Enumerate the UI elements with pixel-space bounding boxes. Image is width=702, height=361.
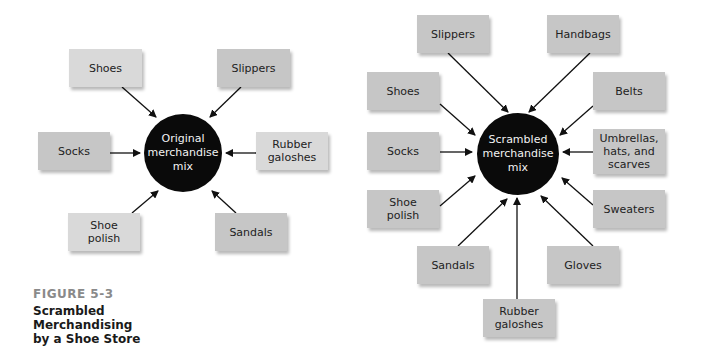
figure-label: FIGURE 5-3 <box>33 287 140 301</box>
arrow-sandals <box>212 191 236 213</box>
arrow-shoe-polish-2 <box>440 176 475 206</box>
scrambled-item-umbrellas-hats-scarves: Umbrellas, hats, and scarves <box>593 129 665 174</box>
arrow-shoe-polish <box>132 191 158 213</box>
original-item-shoes: Shoes <box>69 49 142 87</box>
scrambled-item-socks: Socks <box>367 132 439 170</box>
scrambled-merchandise-mix-hub: Scrambled merchandise mix <box>477 113 559 195</box>
scrambled-item-shoe-polish: Shoe polish <box>367 190 439 228</box>
arrow-belts <box>560 106 593 135</box>
figure-title: Scrambled Merchandising by a Shoe Store <box>33 304 140 346</box>
scrambled-item-rubber-galoshes: Rubber galoshes <box>483 299 555 337</box>
arrow-handbags <box>529 53 590 112</box>
scrambled-item-shoes: Shoes <box>367 72 439 110</box>
arrow-shoes <box>122 87 156 117</box>
arrow-slippers-2 <box>448 53 508 112</box>
scrambled-item-sandals: Sandals <box>417 246 489 284</box>
scrambled-item-sweaters: Sweaters <box>593 190 665 228</box>
scrambled-item-belts: Belts <box>593 72 665 110</box>
original-item-sandals: Sandals <box>215 213 287 251</box>
original-item-shoe-polish: Shoe polish <box>68 213 140 251</box>
original-item-slippers: Slippers <box>217 49 290 87</box>
scrambled-item-gloves: Gloves <box>547 246 619 284</box>
scrambled-item-slippers: Slippers <box>417 15 489 53</box>
arrow-shoes-2 <box>440 104 475 135</box>
arrow-slippers <box>210 87 241 117</box>
scrambled-item-handbags: Handbags <box>547 15 619 53</box>
figure-caption: FIGURE 5-3 Scrambled Merchandising by a … <box>33 287 140 346</box>
original-item-rubber-galoshes: Rubber galoshes <box>256 132 328 170</box>
original-merchandise-mix-hub: Original merchandise mix <box>144 114 222 192</box>
arrow-sandals-2 <box>458 199 507 246</box>
original-item-socks: Socks <box>38 132 110 170</box>
arrow-sweaters <box>562 178 593 205</box>
arrow-gloves <box>541 196 593 246</box>
